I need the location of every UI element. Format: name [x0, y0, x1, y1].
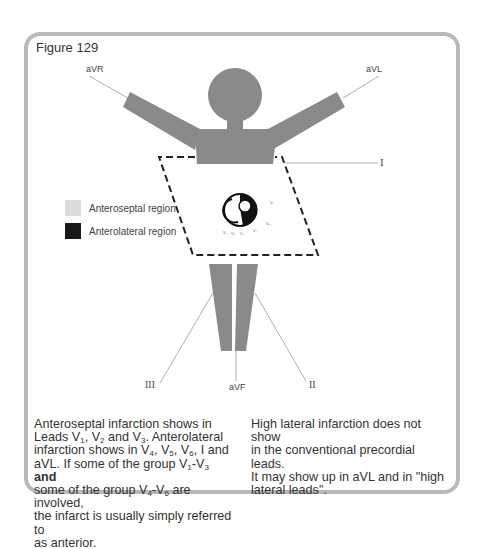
svg-text:V₄: V₄ [253, 228, 258, 233]
anterolateral-swatch [65, 223, 81, 239]
lead-label-avf: aVF [229, 382, 246, 392]
svg-text:V₅: V₅ [266, 221, 271, 226]
lead-label-ii: II [309, 379, 316, 390]
legend-anteroseptal: Anteroseptal region [65, 200, 176, 216]
lead-label-i: I [380, 156, 384, 168]
avr-lead-line [89, 76, 128, 98]
lead-iii-line [160, 293, 213, 383]
lead-label-avr: aVR [86, 64, 104, 74]
head [208, 68, 262, 122]
anterolateral-label: Anterolateral region [89, 226, 176, 237]
caption-right: High lateral infarction does not show in… [251, 418, 451, 497]
anteroseptal-swatch [65, 200, 81, 216]
right-arm [123, 92, 200, 150]
torso [195, 129, 277, 164]
svg-text:V₆: V₆ [270, 200, 275, 205]
caption-left: Anteroseptal infarction shows in Leads V… [34, 418, 234, 549]
left-arm [268, 92, 345, 150]
svg-text:V₂: V₂ [231, 231, 236, 236]
lead-label-avl: aVL [366, 64, 382, 74]
lead-label-iii: III [145, 379, 155, 390]
anteroseptal-label: Anteroseptal region [89, 203, 176, 214]
avl-lead-line [343, 76, 379, 98]
heart-cross-section-icon [223, 194, 257, 226]
svg-text:V₁: V₁ [223, 230, 228, 235]
left-leg [235, 264, 258, 351]
legend-anterolateral: Anterolateral region [65, 223, 176, 239]
lead-ii-line [255, 293, 306, 381]
svg-text:V₃: V₃ [240, 231, 245, 236]
right-leg [209, 264, 232, 351]
